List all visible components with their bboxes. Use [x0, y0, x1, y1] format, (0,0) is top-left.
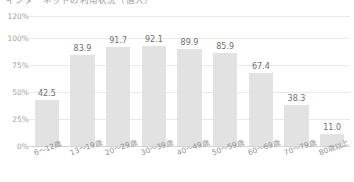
bar[interactable]	[142, 46, 166, 146]
bar-slot[interactable]: 91.7	[100, 16, 136, 146]
bar-value-label: 92.1	[136, 35, 172, 44]
bar-series: 42.583.991.792.189.985.967.438.311.0	[29, 16, 350, 146]
bar-value-label: 11.0	[314, 123, 350, 132]
y-axis-tick-label: 0%	[5, 142, 29, 151]
bar-slot[interactable]: 89.9	[172, 16, 208, 146]
bar-slot[interactable]: 85.9	[207, 16, 243, 146]
bar-slot[interactable]: 11.0	[314, 16, 350, 146]
bar-value-label: 38.3	[279, 94, 315, 103]
bar-value-label: 67.4	[243, 62, 279, 71]
y-axis-tick-label: 100%	[5, 33, 29, 42]
bar[interactable]	[70, 55, 94, 146]
bar-value-label: 89.9	[172, 38, 208, 47]
bar-slot[interactable]: 67.4	[243, 16, 279, 146]
bar-value-label: 91.7	[100, 36, 136, 45]
bar[interactable]	[249, 73, 273, 146]
bar-slot[interactable]: 42.5	[29, 16, 65, 146]
y-axis-tick-label: 120%	[5, 12, 29, 21]
bar[interactable]	[213, 53, 237, 146]
bar[interactable]	[177, 49, 201, 146]
plot-area: 42.583.991.792.189.985.967.438.311.0	[29, 16, 350, 146]
bar-slot[interactable]: 83.9	[65, 16, 101, 146]
y-axis-tick-label: 50%	[5, 87, 29, 96]
y-axis-tick-label: 75%	[5, 60, 29, 69]
chart-title: インターネットの利用状況（個人）	[6, 0, 153, 5]
bar-value-label: 83.9	[65, 44, 101, 53]
bar[interactable]	[106, 47, 130, 146]
bar-slot[interactable]: 92.1	[136, 16, 172, 146]
x-axis: 6〜12歳13〜19歳20〜29歳30〜39歳40〜49歳50〜59歳60〜69…	[29, 147, 350, 182]
bar-chart: インターネットの利用状況（個人） 42.583.991.792.189.985.…	[0, 0, 354, 182]
bar-value-label: 85.9	[207, 42, 243, 51]
bar-value-label: 42.5	[29, 89, 65, 98]
bar-slot[interactable]: 38.3	[279, 16, 315, 146]
y-axis-tick-label: 25%	[5, 114, 29, 123]
